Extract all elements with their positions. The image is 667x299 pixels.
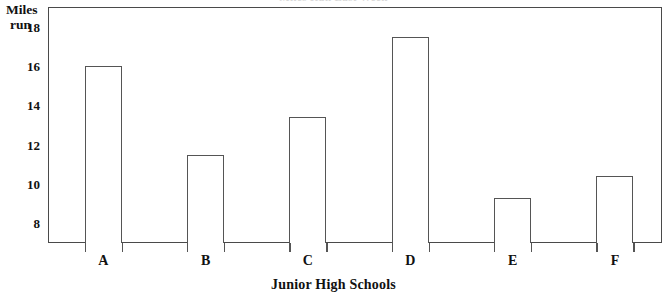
x-axis-tick-mark <box>289 243 290 252</box>
y-axis-tick-labels: 81012141618 <box>0 0 48 299</box>
bar-e <box>494 198 531 243</box>
x-axis-label-b: B <box>201 252 210 270</box>
y-axis-tick-label: 10 <box>27 178 40 191</box>
bar-d <box>392 37 429 244</box>
x-axis-tick-mark <box>633 243 634 252</box>
bars-layer <box>48 7 662 243</box>
y-axis-tick-label: 12 <box>27 138 40 151</box>
x-axis-tick-mark <box>122 243 123 252</box>
bar-chart: Miles Run Last Week Miles run 8101214161… <box>0 0 667 299</box>
x-axis-tick-mark <box>187 243 188 252</box>
chart-title: Miles Run Last Week <box>0 0 667 1</box>
x-axis-tick-mark <box>596 243 597 252</box>
x-axis-tick-mark <box>531 243 532 252</box>
bar-b <box>187 155 224 244</box>
y-axis-tick-label: 18 <box>27 20 40 33</box>
x-axis-title: Junior High Schools <box>0 277 667 293</box>
y-axis-tick-label: 8 <box>34 217 41 230</box>
x-axis-tick-mark <box>429 243 430 252</box>
bar-f <box>596 176 633 243</box>
x-axis-label-e: E <box>508 252 517 270</box>
x-axis-label-a: A <box>98 252 108 270</box>
x-axis-tick-mark <box>494 243 495 252</box>
x-axis-label-d: D <box>405 252 415 270</box>
bar-c <box>289 117 326 243</box>
x-axis-tick-mark <box>392 243 393 252</box>
x-axis-tick-mark <box>224 243 225 252</box>
x-axis-tick-labels: ABCDEF <box>48 252 662 272</box>
y-axis-tick-label: 16 <box>27 60 40 73</box>
x-axis-label-f: F <box>611 252 620 270</box>
y-axis-tick-label: 14 <box>27 99 40 112</box>
x-axis-tick-mark <box>85 243 86 252</box>
x-axis-label-c: C <box>303 252 313 270</box>
x-axis-tick-mark <box>326 243 327 252</box>
bar-a <box>85 66 122 243</box>
